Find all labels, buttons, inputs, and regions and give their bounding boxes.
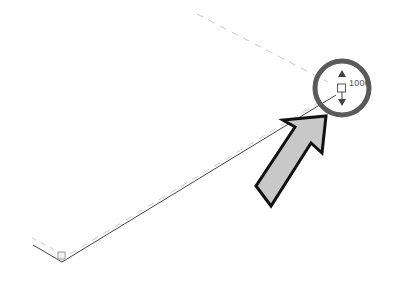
stretch-grip-icon[interactable] — [338, 84, 346, 92]
dashed-edge-left — [32, 238, 55, 250]
dashed-edge-top — [197, 14, 328, 82]
pointer-arrow-icon — [256, 116, 326, 206]
grip-dimension-label: 1000 — [349, 78, 370, 88]
drawing-svg — [0, 0, 414, 285]
corner-grip-icon[interactable] — [58, 252, 65, 259]
drawing-canvas[interactable]: 1000 — [0, 0, 414, 285]
arrow-down-icon[interactable] — [338, 99, 346, 106]
arrow-up-icon[interactable] — [338, 70, 346, 77]
